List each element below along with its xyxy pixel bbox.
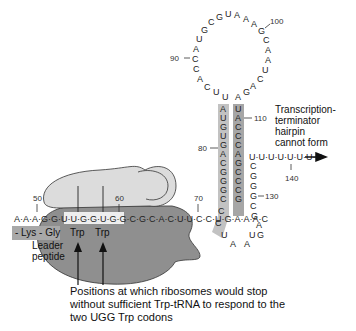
label-50: 50 [33, 194, 42, 203]
svg-text:U: U [221, 230, 228, 240]
label-80: 80 [198, 144, 207, 153]
svg-text:U: U [196, 34, 203, 44]
caption-line: Positions at which ribosomes would stop [70, 285, 350, 298]
leader-label-2: peptide [32, 251, 65, 262]
terminator-note-line: Transcription- [275, 104, 355, 115]
caption-line: two UGG Trp codons [70, 311, 350, 324]
hairpin-stem: AU UA GC UC GC AA CG GC GC GC CG [220, 104, 242, 204]
svg-text:C: C [193, 64, 200, 74]
svg-text:G: G [250, 181, 257, 191]
svg-text:U: U [249, 230, 256, 240]
svg-text:A: A [197, 74, 203, 84]
svg-text:A: A [265, 55, 271, 65]
svg-text:A: A [230, 239, 236, 249]
svg-text:A: A [265, 45, 271, 55]
svg-text:G: G [235, 194, 242, 204]
svg-text:A: A [244, 239, 250, 249]
label-90: 90 [170, 54, 179, 63]
svg-text:A: A [243, 14, 249, 24]
leader-label-1: Leader [32, 240, 64, 251]
hairpin-loop: U U C A C C A U G C G U A A A G C A A U … [192, 9, 271, 102]
terminator-note-line: hairpin [275, 126, 355, 137]
svg-text:G: G [250, 191, 257, 201]
peptide-trp-1: Trp [70, 227, 85, 238]
label-140: 140 [285, 174, 299, 183]
svg-text:A: A [193, 44, 199, 54]
terminator-note-line: terminator [275, 115, 355, 126]
label-130: 130 [265, 192, 279, 201]
label-70: 70 [194, 194, 203, 203]
svg-text:A: A [235, 92, 241, 102]
svg-text:A: A [234, 10, 240, 20]
svg-text:A: A [251, 19, 257, 29]
trp-attenuation-diagram: U U C A C C A U G C G U A A A G C A A U … [0, 0, 356, 331]
svg-text:G: G [243, 87, 250, 97]
svg-text:U: U [225, 9, 232, 19]
caption-line: without sufficient Trp-tRNA to respond t… [70, 298, 350, 311]
label-100: 100 [270, 17, 284, 26]
svg-text:U: U [213, 87, 220, 97]
terminator-note-line: cannot form [275, 137, 355, 148]
svg-text:C: C [204, 82, 211, 92]
svg-text:G: G [257, 230, 264, 240]
svg-text:G: G [216, 12, 223, 22]
peptide-trp-2: Trp [95, 227, 110, 238]
svg-text:C: C [220, 194, 227, 204]
svg-text:C: C [250, 161, 257, 171]
svg-text:C: C [192, 54, 199, 64]
label-60: 60 [115, 194, 124, 203]
svg-text:A: A [250, 81, 256, 91]
peptide-lys-gly: - Lys - Gly [15, 227, 60, 238]
ribosome-small-subunit [43, 166, 176, 208]
svg-text:G: G [250, 171, 257, 181]
terminator-note: Transcription- terminator hairpin cannot… [275, 104, 355, 148]
figure-caption: Positions at which ribosomes would stop … [70, 285, 350, 324]
svg-text:G: G [201, 25, 208, 35]
label-110: 110 [254, 114, 267, 123]
svg-text:C: C [257, 74, 264, 84]
svg-text:C: C [263, 35, 270, 45]
leader-sequence: A·A·A·G·G·U·U·G·G·U·G·G·C·G·C·A·C·U·U·C·… [14, 214, 268, 224]
svg-text:U: U [222, 92, 229, 102]
svg-text:C: C [208, 17, 215, 27]
svg-text:C: C [250, 201, 257, 211]
